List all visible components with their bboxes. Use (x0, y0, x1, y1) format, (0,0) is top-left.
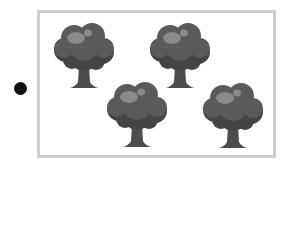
tree-3-icon (105, 81, 169, 151)
tree-4-icon (201, 82, 265, 152)
bullet-dot-icon (14, 82, 27, 95)
